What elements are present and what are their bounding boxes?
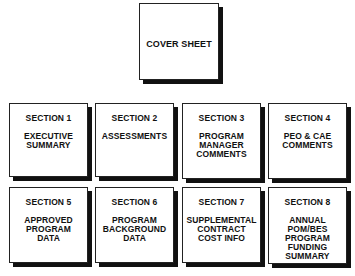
section-3-header: SECTION 3 bbox=[183, 114, 260, 123]
section-6-title: PROGRAM BACKGROUND DATA bbox=[96, 216, 173, 243]
section-1-header: SECTION 1 bbox=[10, 114, 87, 123]
section-7-box: SECTION 7 SUPPLEMENTAL CONTRACT COST INF… bbox=[182, 187, 261, 263]
section-7-header: SECTION 7 bbox=[183, 198, 260, 207]
section-1-title: EXECUTIVE SUMMARY bbox=[10, 132, 87, 150]
section-2-box: SECTION 2 ASSESSMENTS bbox=[95, 103, 174, 177]
cover-sheet-box: COVER SHEET bbox=[139, 3, 219, 80]
section-5-title: APPROVED PROGRAM DATA bbox=[10, 216, 87, 243]
section-1-box: SECTION 1 EXECUTIVE SUMMARY bbox=[9, 103, 88, 177]
section-3-title: PROGRAM MANAGER COMMENTS bbox=[183, 132, 260, 159]
section-6-header: SECTION 6 bbox=[96, 198, 173, 207]
section-2-title: ASSESSMENTS bbox=[96, 132, 173, 141]
section-4-title: PEO & CAE COMMENTS bbox=[269, 132, 346, 150]
section-4-header: SECTION 4 bbox=[269, 114, 346, 123]
section-7-title: SUPPLEMENTAL CONTRACT COST INFO bbox=[183, 216, 260, 243]
section-2-header: SECTION 2 bbox=[96, 114, 173, 123]
section-6-box: SECTION 6 PROGRAM BACKGROUND DATA bbox=[95, 187, 174, 263]
section-5-box: SECTION 5 APPROVED PROGRAM DATA bbox=[9, 187, 88, 263]
cover-sheet-title: COVER SHEET bbox=[140, 40, 218, 49]
section-8-header: SECTION 8 bbox=[269, 198, 346, 207]
section-3-box: SECTION 3 PROGRAM MANAGER COMMENTS bbox=[182, 103, 261, 179]
section-5-header: SECTION 5 bbox=[10, 198, 87, 207]
section-8-title: ANNUAL POM/BES PROGRAM FUNDING SUMMARY bbox=[269, 216, 346, 261]
section-4-box: SECTION 4 PEO & CAE COMMENTS bbox=[268, 103, 347, 179]
section-8-box: SECTION 8 ANNUAL POM/BES PROGRAM FUNDING… bbox=[268, 187, 347, 264]
